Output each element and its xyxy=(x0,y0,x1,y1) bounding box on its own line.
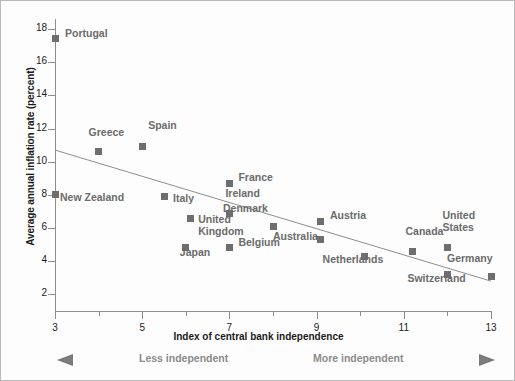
data-point-marker xyxy=(187,215,194,222)
data-point-marker xyxy=(226,244,233,251)
y-tick-label: 4 xyxy=(23,254,47,265)
chart-figure: Average annual inflation rate (percent) … xyxy=(0,0,515,381)
x-tick xyxy=(317,311,318,319)
y-tick-label: 12 xyxy=(23,122,47,133)
data-point-marker xyxy=(52,191,59,198)
data-point-marker xyxy=(488,273,495,280)
plot-area: 24681012141618 35791113 PortugalGreeceSp… xyxy=(55,19,491,311)
data-point-label: Spain xyxy=(148,119,177,131)
data-point-marker xyxy=(317,236,324,243)
data-point-label: United States xyxy=(442,209,475,233)
x-tick xyxy=(55,311,56,319)
less-independent-label: Less independent xyxy=(139,352,228,364)
y-tick xyxy=(48,294,55,295)
data-point-marker xyxy=(52,35,59,42)
data-point-marker xyxy=(444,244,451,251)
data-point-label: United Kingdom xyxy=(198,213,244,237)
y-tick xyxy=(48,95,55,96)
data-point-label: Switzerland xyxy=(407,272,465,284)
y-tick xyxy=(48,228,55,229)
y-tick-label: 10 xyxy=(23,155,47,166)
data-point-label: Greece xyxy=(89,126,125,138)
data-point-label: Canada xyxy=(406,225,444,237)
data-point-label: Denmark xyxy=(223,202,268,214)
data-point-label: France xyxy=(238,171,272,183)
x-tick xyxy=(229,311,230,319)
y-tick-label: 14 xyxy=(23,88,47,99)
data-point-marker xyxy=(95,148,102,155)
x-tick-minor xyxy=(360,311,361,316)
data-point-label: Netherlands xyxy=(323,253,384,265)
y-tick-label: 16 xyxy=(23,55,47,66)
data-point-label: Austria xyxy=(330,209,366,221)
data-point-marker xyxy=(409,248,416,255)
x-axis-title: Index of central bank independence xyxy=(1,331,515,342)
y-tick xyxy=(48,261,55,262)
x-tick-minor xyxy=(447,311,448,316)
y-tick-label: 6 xyxy=(23,221,47,232)
y-tick-label: 8 xyxy=(23,188,47,199)
data-point-marker xyxy=(139,143,146,150)
data-point-marker xyxy=(226,180,233,187)
y-tick-label: 2 xyxy=(23,287,47,298)
x-tick xyxy=(491,311,492,319)
y-tick xyxy=(48,162,55,163)
trend-line xyxy=(55,19,491,311)
data-point-marker xyxy=(317,218,324,225)
x-tick-minor xyxy=(273,311,274,316)
independence-scale-annotation: Less independent More independent xyxy=(1,349,515,371)
x-tick xyxy=(142,311,143,319)
data-point-label: Japan xyxy=(180,246,210,258)
y-tick-label: 18 xyxy=(23,22,47,33)
data-point-label: Germany xyxy=(447,252,493,264)
left-arrow-icon xyxy=(57,354,134,366)
data-point-label: New Zealand xyxy=(60,191,124,203)
y-tick xyxy=(48,129,55,130)
data-point-marker xyxy=(161,193,168,200)
data-point-label: Australia xyxy=(273,230,318,242)
data-point-label: Portugal xyxy=(65,27,108,39)
more-independent-label: More independent xyxy=(313,352,403,364)
y-tick xyxy=(48,62,55,63)
x-tick-minor xyxy=(99,311,100,316)
data-point-label: Ireland xyxy=(225,187,259,199)
data-point-label: Italy xyxy=(173,192,194,204)
x-tick xyxy=(404,311,405,319)
y-tick xyxy=(48,29,55,30)
right-arrow-icon xyxy=(426,354,495,366)
x-tick-minor xyxy=(186,311,187,316)
